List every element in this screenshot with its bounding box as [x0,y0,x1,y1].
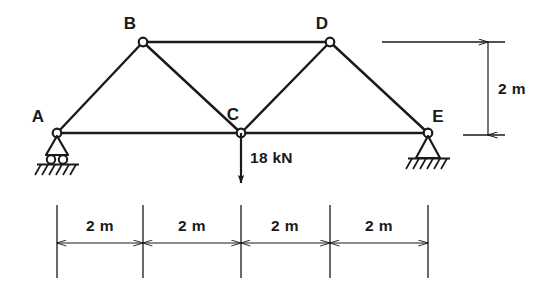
member-C-D [241,42,330,133]
roller-wheel-right [59,155,67,163]
member-A-B [57,42,143,133]
truss-joints [53,38,433,138]
member-D-E [330,42,428,133]
dimension-label-segment-3: 2 m [271,217,299,234]
node-label-A: A [32,107,44,126]
joint-B [139,38,148,47]
height-dimension-label: 2 m [498,80,526,97]
ground-hatching-E [406,159,447,170]
node-label-E: E [432,107,443,126]
dimension-label-segment-2: 2 m [178,217,206,234]
support-A-roller [35,136,79,175]
horizontal-dimension-chain [57,205,428,278]
dimension-label-segment-4: 2 m [365,217,393,234]
roller-wheel-left [47,155,55,163]
dimension-extension-lines [57,205,428,278]
dimension-label-segment-1: 2 m [86,217,114,234]
node-label-D: D [316,14,328,33]
load-label: 18 kN [250,149,293,166]
node-label-B: B [124,14,136,33]
truss-members [57,42,428,133]
truss-drawing-canvas: A B C D E 18 kN 2 m 2 m 2 m 2 m 2 m [0,0,547,288]
support-E-pin [406,136,450,169]
joint-D [326,38,335,47]
diagram-text-labels: A B C D E 18 kN 2 m 2 m 2 m 2 m 2 m [32,14,526,234]
ground-hatching-A [35,165,76,176]
node-label-C: C [227,105,239,124]
truss-diagram: A B C D E 18 kN 2 m 2 m 2 m 2 m 2 m [0,0,547,288]
